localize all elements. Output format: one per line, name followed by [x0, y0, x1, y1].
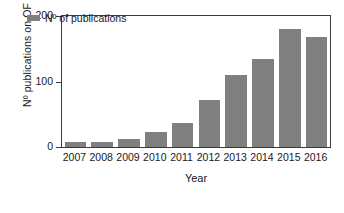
bar	[145, 132, 166, 147]
x-axis-tick-label: 2014	[249, 151, 276, 163]
bar	[91, 142, 112, 147]
bar	[172, 123, 193, 147]
x-axis-tick-label: 2016	[302, 151, 329, 163]
x-axis-tick-label: 2013	[222, 151, 249, 163]
bar	[225, 75, 246, 147]
legend-label: Nº of publications	[45, 12, 126, 24]
bar	[118, 139, 139, 147]
bar	[65, 142, 86, 147]
x-axis-tick-label: 2010	[141, 151, 168, 163]
legend-swatch-icon	[27, 15, 40, 21]
x-axis-tick-label: 2007	[61, 151, 88, 163]
y-axis-tick: 100	[56, 82, 62, 83]
x-axis-tick-label: 2015	[275, 151, 302, 163]
plot-area: 0100200	[61, 15, 331, 148]
x-axis-tick-label: 2011	[168, 151, 195, 163]
x-axis-ticks: 2007200820092010201120122013201420152016	[61, 151, 331, 165]
bar	[252, 59, 273, 147]
x-axis-title: Year	[61, 172, 331, 184]
y-axis-tick-label: 100	[35, 75, 53, 87]
y-axis-tick: 0	[56, 147, 62, 148]
bar	[279, 29, 300, 147]
bar	[306, 37, 327, 147]
bar	[199, 100, 220, 147]
bar-chart: Nº publications on OF 0100200 2007200820…	[0, 0, 344, 213]
x-axis-tick-label: 2009	[115, 151, 142, 163]
legend: Nº of publications	[27, 12, 126, 24]
y-axis-tick-label: 0	[47, 140, 53, 152]
x-axis-tick-label: 2012	[195, 151, 222, 163]
x-axis-tick-label: 2008	[88, 151, 115, 163]
